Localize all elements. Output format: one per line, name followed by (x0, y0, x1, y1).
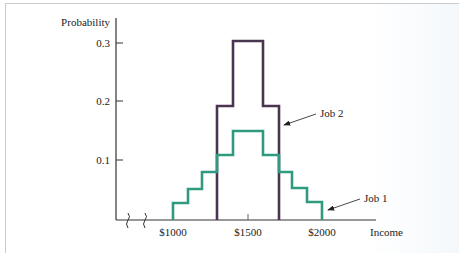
series-job-1 (173, 131, 322, 220)
x-tick-label-1500: $1500 (234, 226, 262, 238)
job-2-arrow-icon (284, 114, 316, 125)
x-tick-label-2000: $2000 (308, 226, 336, 238)
x-axis-label: Income (370, 226, 403, 238)
y-tick-label-0.1: 0.1 (96, 154, 110, 166)
y-ticks (116, 43, 123, 160)
job-1-label: Job 1 (364, 192, 388, 204)
job-2-label: Job 2 (320, 107, 344, 119)
y-axis-label: Probability (61, 16, 110, 28)
y-tick-label-0.2: 0.2 (96, 95, 110, 107)
job-1-arrow-icon (328, 199, 360, 210)
y-tick-label-0.3: 0.3 (96, 37, 110, 49)
x-tick-label-1000: $1000 (159, 226, 187, 238)
